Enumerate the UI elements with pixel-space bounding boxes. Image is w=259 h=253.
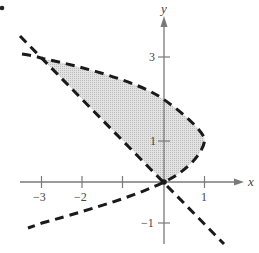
y-tick-label: 1 — [150, 134, 156, 148]
region-diagram: −3 −2 1 x 3 1 −1 y — [0, 0, 259, 253]
x-axis-arrow-icon — [234, 179, 244, 186]
x-tick-label: −2 — [74, 190, 87, 204]
shaded-region — [42, 58, 205, 182]
x-axis: −3 −2 1 x — [20, 174, 254, 204]
origin-intersection-point — [161, 179, 167, 185]
x-tick-label: −3 — [33, 190, 46, 204]
y-tick-label: −1 — [141, 216, 154, 230]
x-axis-label: x — [247, 174, 254, 189]
x-tick-label: 1 — [201, 190, 207, 204]
y-axis-arrow-icon — [161, 16, 168, 27]
y-axis-label: y — [159, 1, 167, 16]
y-tick-label: 3 — [149, 50, 155, 64]
bullet-marker — [0, 6, 4, 11]
